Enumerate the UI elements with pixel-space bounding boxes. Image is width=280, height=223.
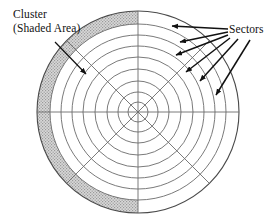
cluster-label-line2: (Shaded Area) [13,22,80,36]
sectors-leader-arrow [216,40,250,95]
cluster-annotation-label: Cluster (Shaded Area) [13,8,80,35]
cluster-label-line1: Cluster [13,8,80,22]
sectors-leader-arrow [172,26,228,29]
disk-platter-figure: Cluster (Shaded Area) Sectors [0,0,280,223]
sector-divider-lines [37,11,239,213]
sectors-annotation-label: Sectors [229,23,264,37]
